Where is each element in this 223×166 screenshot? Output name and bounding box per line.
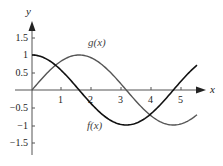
y-axis-arrow-icon <box>29 21 36 31</box>
x-tick-label-3: 3 <box>118 94 123 105</box>
x-tick-label-4: 4 <box>148 94 153 105</box>
x-tick-label-5: 5 <box>178 94 183 105</box>
f-curve-label: f(x) <box>87 119 103 132</box>
function-plot: x y 1 2 3 4 5 1.5 1 0.5 −0.5 −1 −1.5 g(x… <box>0 0 223 166</box>
y-tick-label-neg1: −1 <box>17 120 28 131</box>
y-axis-label: y <box>25 5 31 17</box>
x-tick-label-1: 1 <box>58 94 63 105</box>
y-tick-label-neg0.5: −0.5 <box>10 102 28 113</box>
x-axis-label: x <box>209 83 215 95</box>
y-tick-label-1.5: 1.5 <box>16 32 29 43</box>
g-curve-label: g(x) <box>88 36 106 49</box>
y-tick-label-neg1.5: −1.5 <box>10 137 28 148</box>
x-axis-arrow-icon <box>196 87 206 94</box>
y-tick-label-0.5: 0.5 <box>16 67 29 78</box>
y-tick-label-1: 1 <box>23 49 28 60</box>
